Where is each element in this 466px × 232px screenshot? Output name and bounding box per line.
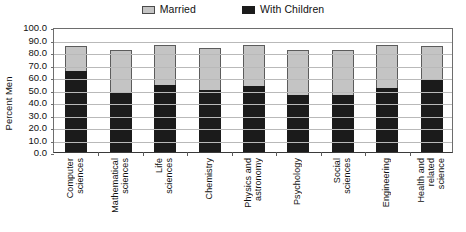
gridline [54, 92, 452, 93]
y-tick-label: 0.0 [34, 148, 47, 158]
legend-label-with-children: With Children [260, 4, 324, 15]
gridline [54, 117, 452, 118]
x-axis-label-line: sciences [75, 158, 85, 194]
bar-group [154, 27, 176, 152]
y-tick-mark [51, 79, 54, 80]
y-tick-label: 40.0 [29, 98, 48, 108]
bar-segment-with-children [110, 92, 132, 152]
x-axis-label-line: Psychology [292, 158, 302, 205]
stacked-bar-chart: Married With Children Percent Men 100.09… [0, 0, 466, 232]
gridline [54, 54, 452, 55]
gridline [54, 104, 452, 105]
x-axis-label: Lifesciences [151, 158, 177, 230]
gridline [54, 42, 452, 43]
y-tick-mark [51, 142, 54, 143]
y-tick-label: 20.0 [29, 123, 48, 133]
x-tick-mark [232, 152, 233, 156]
y-axis-tick-labels: 100.090.080.070.060.050.040.030.020.010.… [14, 28, 50, 153]
x-axis-label-line: Health and [416, 158, 426, 203]
y-tick-label: 70.0 [29, 61, 48, 71]
gridline [54, 142, 452, 143]
x-axis-label-line: sciences [164, 158, 174, 194]
y-axis-title-text: Percent Men [4, 76, 15, 130]
x-axis-label-line: science [436, 158, 446, 189]
chart-legend: Married With Children [0, 4, 466, 15]
x-axis-label-line: Physics and [243, 158, 253, 208]
x-axis-label-line: astronomy [253, 158, 263, 201]
x-tick-mark [365, 152, 366, 156]
bar-group [65, 27, 87, 152]
x-axis-label: Health andrelatedscience [412, 158, 449, 230]
bar-group [110, 27, 132, 152]
x-axis-label-line: Chemistry [204, 158, 214, 199]
legend-swatch-with-children-icon [242, 6, 255, 14]
bar-segment-with-children [199, 90, 221, 152]
legend-label-married: Married [160, 4, 196, 15]
legend-swatch-married-icon [142, 6, 155, 14]
x-tick-mark [276, 152, 277, 156]
y-tick-mark [51, 29, 54, 30]
x-axis-label: Physics andastronomy [240, 158, 266, 230]
x-axis-label: Socialsciences [329, 158, 355, 230]
x-axis-label-line: Life [154, 158, 164, 173]
x-axis-label-line: related [426, 158, 436, 186]
bar-group [332, 27, 354, 152]
y-tick-mark [51, 92, 54, 93]
x-tick-mark [410, 152, 411, 156]
legend-entry-married: Married [142, 4, 196, 15]
legend-entry-with-children: With Children [242, 4, 324, 15]
x-axis-label: Mathematicalsciences [107, 158, 133, 230]
bar-group [287, 27, 309, 152]
x-axis-label: Computersciences [62, 158, 88, 230]
y-tick-label: 50.0 [29, 86, 48, 96]
x-axis-label-line: sciences [342, 158, 352, 194]
x-axis-label-line: Computer [65, 158, 75, 198]
x-axis-label: Psychology [290, 158, 305, 230]
bar-group [376, 27, 398, 152]
y-tick-mark [51, 117, 54, 118]
x-axis-category-labels: ComputersciencesMathematicalsciencesLife… [53, 158, 453, 232]
y-tick-mark [51, 104, 54, 105]
gridline [54, 79, 452, 80]
x-axis-label-line: Social [332, 158, 342, 183]
y-tick-label: 60.0 [29, 73, 48, 83]
x-axis-label-line: sciences [120, 158, 130, 194]
x-tick-mark [143, 152, 144, 156]
y-tick-mark [51, 154, 54, 155]
gridline [54, 129, 452, 130]
y-tick-label: 10.0 [29, 136, 48, 146]
y-tick-mark [51, 67, 54, 68]
x-axis-label-line: Mathematical [110, 158, 120, 213]
y-tick-mark [51, 54, 54, 55]
x-axis-label: Chemistry [201, 158, 216, 230]
plot-area [53, 28, 453, 153]
bar-group [199, 27, 221, 152]
y-tick-label: 30.0 [29, 111, 48, 121]
y-tick-mark [51, 42, 54, 43]
y-tick-mark [51, 129, 54, 130]
y-tick-label: 100.0 [23, 23, 47, 33]
x-tick-mark [321, 152, 322, 156]
y-tick-label: 90.0 [29, 36, 48, 46]
x-axis-label-line: Engineering [381, 158, 391, 207]
bar-series-container [54, 29, 452, 152]
bar-group [243, 27, 265, 152]
x-tick-mark [187, 152, 188, 156]
y-tick-label: 80.0 [29, 48, 48, 58]
x-axis-label: Engineering [379, 158, 394, 230]
bar-group [421, 27, 443, 152]
gridline [54, 67, 452, 68]
x-tick-mark [98, 152, 99, 156]
bar-segment-with-children [65, 71, 87, 152]
